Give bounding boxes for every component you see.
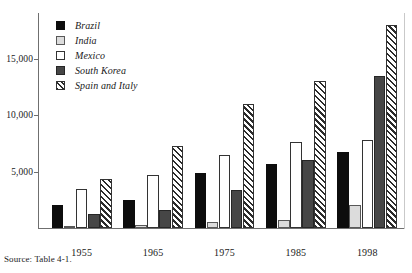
bar-spain-and-italy — [243, 104, 255, 228]
legend-item-south-korea: South Korea — [56, 63, 176, 78]
bar-spain-and-italy — [314, 81, 326, 228]
bar-spain-and-italy — [100, 179, 112, 228]
bar-spain-and-italy — [172, 146, 184, 228]
bar-india — [135, 225, 147, 228]
legend-item-label: South Korea — [75, 66, 126, 76]
bar-south-korea — [231, 190, 243, 228]
y-axis-line — [38, 13, 39, 229]
bar-south-korea — [374, 76, 386, 228]
legend-item-india: India — [56, 33, 176, 48]
plot-right-edge — [404, 13, 405, 229]
bar-mexico — [147, 175, 159, 228]
legend-item-brazil: Brazil — [56, 18, 176, 33]
bar-brazil — [337, 152, 349, 228]
y-axis-tick — [34, 115, 39, 116]
legend-item-mexico: Mexico — [56, 48, 176, 63]
x-axis-tick-label: 1975 — [214, 247, 235, 258]
y-axis-tick-label: 15,000 — [0, 55, 33, 65]
bar-brazil — [123, 200, 135, 228]
legend-item-label: Spain and Italy — [75, 81, 138, 91]
light-gray-square-icon — [56, 36, 65, 45]
legend-item-label: Mexico — [75, 51, 105, 61]
bar-brazil — [52, 205, 64, 228]
bar-south-korea — [88, 214, 100, 228]
bar-india — [64, 226, 76, 228]
legend: Brazil India Mexico South Korea Spain an… — [56, 18, 176, 93]
bar-south-korea — [302, 160, 314, 228]
x-axis-tick-label: 1965 — [143, 247, 164, 258]
solid-black-square-icon — [56, 21, 65, 30]
bar-brazil — [266, 164, 278, 228]
diagonal-hatch-square-icon — [56, 81, 65, 90]
bar-mexico — [76, 189, 88, 228]
bar-group-1998 — [337, 13, 397, 228]
x-axis-tick-label: 1998 — [357, 247, 378, 258]
source-note: Source: Table 4-1. — [4, 254, 72, 264]
bar-india — [207, 222, 219, 228]
bar-spain-and-italy — [386, 25, 398, 228]
bar-mexico — [362, 140, 374, 228]
y-axis-tick — [34, 59, 39, 60]
bar-india — [278, 220, 290, 228]
y-axis-tick — [34, 172, 39, 173]
legend-item-label: Brazil — [75, 21, 100, 31]
bar-mexico — [219, 155, 231, 228]
x-axis-tick-label: 1985 — [285, 247, 306, 258]
bar-mexico — [290, 142, 302, 228]
y-axis-tick-label: 10,000 — [0, 111, 33, 121]
bar-south-korea — [159, 210, 171, 228]
x-axis-tick-label: 1955 — [71, 247, 92, 258]
bar-group-1975 — [195, 13, 255, 228]
bar-india — [349, 205, 361, 228]
x-axis-line — [38, 228, 405, 229]
bar-chart-figure: 5,000 10,000 15,000 19551965197519851998… — [0, 0, 412, 273]
bar-brazil — [195, 173, 207, 228]
legend-item-spain-and-italy: Spain and Italy — [56, 78, 176, 93]
white-square-icon — [56, 51, 65, 60]
legend-item-label: India — [75, 36, 97, 46]
dark-gray-square-icon — [56, 66, 65, 75]
bar-group-1985 — [266, 13, 326, 228]
y-axis-tick-label: 5,000 — [0, 168, 33, 178]
